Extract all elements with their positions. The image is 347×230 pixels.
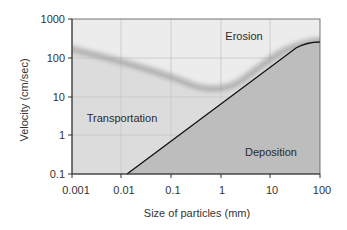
y-tick-label: 10	[53, 91, 65, 103]
y-tick-label: 100	[47, 52, 65, 64]
deposition-label: Deposition	[245, 146, 297, 158]
y-axis-title: Velocity (cm/sec)	[18, 58, 30, 141]
y-axis-ticks	[68, 19, 72, 174]
y-tick-label: 0.1	[50, 168, 65, 180]
x-tick-label: 0.001	[62, 184, 90, 196]
velocity-particle-size-chart: 1000 100 10 1 0.1 0.001 0.01 0.1 1 10 10…	[0, 0, 347, 230]
y-tick-label: 1	[59, 129, 65, 141]
y-tick-label: 1000	[41, 13, 65, 25]
x-tick-label: 0.01	[113, 184, 134, 196]
x-tick-label: 100	[313, 184, 331, 196]
x-tick-label: 10	[266, 184, 278, 196]
x-axis-ticks	[72, 174, 320, 178]
transportation-label: Transportation	[87, 112, 158, 124]
x-tick-label: 0.1	[165, 184, 180, 196]
erosion-label: Erosion	[225, 30, 262, 42]
x-tick-label: 1	[219, 184, 225, 196]
x-axis-title: Size of particles (mm)	[144, 207, 250, 219]
